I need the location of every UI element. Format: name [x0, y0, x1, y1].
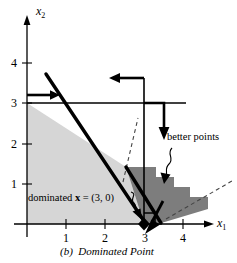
y-tick-label-1: 1 [11, 178, 17, 190]
x-tick-label-4: 4 [180, 232, 186, 244]
figure-caption-id: (b) [60, 245, 73, 257]
right-arrow-at-y3 [27, 90, 60, 100]
dominated-point-label-prefix: dominated [28, 192, 75, 203]
left-arrow-top [109, 73, 144, 83]
down-arrow-right [144, 103, 169, 140]
figure-caption-text: Dominated Point [78, 245, 153, 257]
figure-caption: (b) Dominated Point [60, 246, 154, 257]
x-tick-label-1: 1 [63, 232, 69, 244]
better-points-label: better points [167, 132, 219, 143]
x-axis-label: x1 [217, 217, 226, 232]
y-tick-label-4: 4 [11, 57, 17, 69]
dominated-point-label-value: = (3, 0) [80, 192, 114, 203]
y-tick-label-2: 2 [11, 138, 17, 150]
y-tick-label-3: 3 [11, 97, 17, 109]
dominated-point-label: dominated x = (3, 0) [28, 193, 114, 204]
x-tick-label-2: 2 [102, 232, 108, 244]
figure-container: x2 x1 1 2 3 4 1 2 3 4 better points domi… [0, 0, 237, 263]
y-axis-arrowhead [24, 15, 31, 25]
better-points-leader [166, 148, 172, 176]
x-tick-label-3: 3 [142, 232, 148, 244]
feasible-region [27, 103, 144, 224]
x-axis-arrowhead [204, 221, 214, 228]
y-axis-label: x2 [36, 5, 45, 20]
